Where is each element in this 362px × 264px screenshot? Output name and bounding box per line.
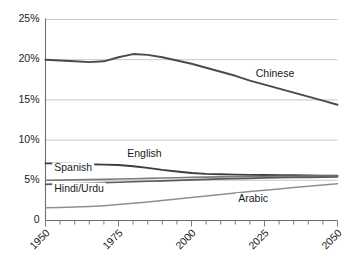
x-tick-label-1975: 1975 (100, 226, 125, 251)
x-tick-label-2000: 2000 (173, 226, 198, 251)
y-tick-label-10%: 10% (18, 133, 39, 145)
y-tick-label-20%: 20% (18, 52, 39, 64)
language-share-chart: 05%10%15%20%25% 19501975200020252050 Chi… (0, 0, 362, 264)
series-label-spanish: Spanish (54, 161, 92, 173)
series-label-arabic: Arabic (238, 192, 268, 204)
y-tick-label-15%: 15% (18, 93, 39, 105)
y-axis-tick-labels: 05%10%15%20%25% (18, 12, 39, 225)
x-tick-label-1950: 1950 (27, 226, 52, 251)
chart-svg: 05%10%15%20%25% 19501975200020252050 Chi… (0, 0, 362, 264)
y-tick-label-5%: 5% (24, 173, 39, 185)
x-axis-tick-labels: 19501975200020252050 (27, 226, 344, 251)
series-label-chinese: Chinese (256, 67, 295, 79)
series-label-english: English (127, 147, 162, 159)
series-annotations: ChineseEnglishSpanishHindi/UrduArabic (52, 67, 296, 205)
x-tick-label-2025: 2025 (246, 226, 271, 251)
series-label-hindi-urdu: Hindi/Urdu (54, 182, 104, 194)
y-tick-label-0: 0 (34, 213, 40, 225)
gridlines (46, 20, 338, 181)
y-tick-label-25%: 25% (18, 12, 39, 24)
x-tick-label-2050: 2050 (319, 226, 344, 251)
x-axis-ticks (46, 221, 338, 227)
